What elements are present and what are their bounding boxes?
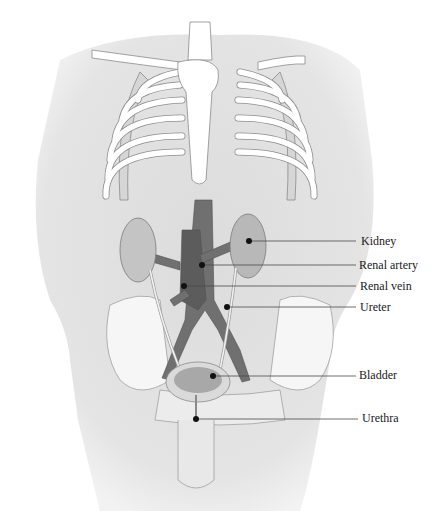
label-renal-vein: Renal vein bbox=[360, 279, 412, 293]
label-kidney: Kidney bbox=[361, 234, 396, 248]
label-bladder: Bladder bbox=[359, 368, 397, 382]
label-ureter: Ureter bbox=[360, 300, 391, 314]
penis-outline bbox=[178, 420, 214, 488]
anatomy-illustration bbox=[0, 0, 440, 511]
urinary-system-diagram: Kidney Renal artery Renal vein Ureter Bl… bbox=[0, 0, 440, 511]
label-urethra: Urethra bbox=[362, 411, 399, 425]
spine-neck bbox=[188, 22, 212, 60]
label-renal-artery: Renal artery bbox=[359, 258, 418, 272]
